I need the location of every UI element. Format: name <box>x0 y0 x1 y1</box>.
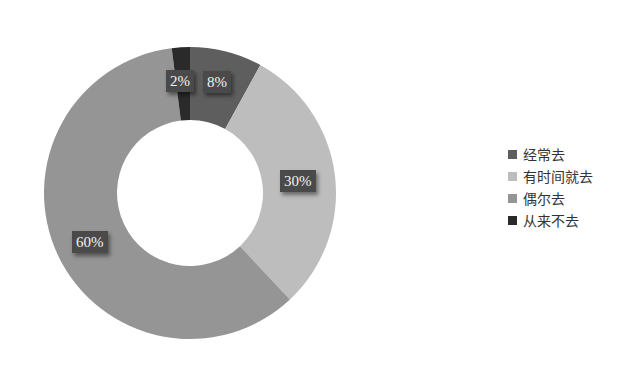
data-label-occasionally: 60% <box>72 231 108 253</box>
legend-label: 经常去 <box>523 144 565 164</box>
legend-label: 有时间就去 <box>523 166 593 186</box>
legend-label: 偶尔去 <box>523 188 565 208</box>
legend-swatch <box>508 150 517 159</box>
legend-item-occasionally: 偶尔去 <box>508 187 593 209</box>
legend-swatch <box>508 172 517 181</box>
legend-item-often: 经常去 <box>508 143 593 165</box>
legend-item-never: 从来不去 <box>508 209 593 231</box>
data-label-never: 2% <box>166 70 194 92</box>
legend-item-sometimes: 有时间就去 <box>508 165 593 187</box>
data-label-sometimes: 30% <box>280 170 316 192</box>
legend-swatch <box>508 194 517 203</box>
data-label-often: 8% <box>203 71 231 93</box>
legend-label: 从来不去 <box>523 210 579 230</box>
chart-legend: 经常去 有时间就去 偶尔去 从来不去 <box>508 143 593 231</box>
legend-swatch <box>508 216 517 225</box>
